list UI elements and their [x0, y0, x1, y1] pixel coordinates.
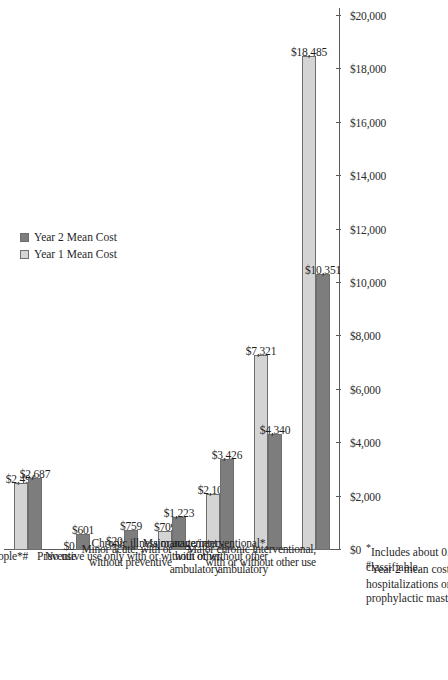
legend-item[interactable]: Year 1 Mean Cost — [20, 248, 117, 260]
category-label: Major chronic interventional, with or wi… — [166, 543, 316, 569]
bar-value-label: $10,351 — [305, 264, 341, 276]
footnote-text: Year 2 mean cost includes a small number… — [366, 563, 448, 604]
bar-value-label: $7,321 — [246, 345, 276, 357]
chart-rotation-stage: $0$2,000$4,000$6,000$8,000$10,000$12,000… — [0, 0, 448, 680]
value-axis-tick — [336, 335, 341, 336]
bar-year1[interactable] — [302, 56, 316, 550]
value-axis-tick — [336, 549, 341, 550]
value-axis-tick-label: $20,000 — [350, 10, 386, 22]
value-axis-tick-label: $0 — [350, 544, 361, 556]
bar-value-label: $2,687 — [20, 468, 50, 480]
legend-swatch-icon — [20, 250, 29, 259]
value-axis-tick — [336, 442, 341, 443]
bar-year1[interactable] — [254, 355, 268, 550]
value-axis-tick — [336, 15, 341, 16]
legend-label: Year 2 Mean Cost — [34, 231, 117, 243]
value-axis-tick-label: $8,000 — [350, 330, 380, 342]
footnote: #Year 2 mean cost includes a small numbe… — [366, 559, 448, 606]
legend-label: Year 1 Mean Cost — [34, 248, 117, 260]
value-axis-tick — [336, 389, 341, 390]
value-axis-tick — [336, 496, 341, 497]
bar-year2[interactable] — [316, 274, 330, 550]
value-axis-tick — [336, 122, 341, 123]
value-axis-tick-label: $4,000 — [350, 437, 380, 449]
value-axis-tick — [336, 68, 341, 69]
value-axis-tick-label: $14,000 — [350, 170, 386, 182]
bar-year1[interactable] — [14, 484, 28, 551]
bar-value-label: $3,426 — [212, 449, 242, 461]
bar-value-label: $759 — [120, 520, 142, 532]
value-axis-tick-label: $2,000 — [350, 491, 380, 503]
value-axis-tick — [336, 175, 341, 176]
value-axis-tick — [336, 229, 341, 230]
value-axis-tick-label: $10,000 — [350, 277, 386, 289]
bar-year2[interactable] — [268, 434, 282, 550]
legend-swatch-icon — [20, 233, 29, 242]
bar-value-label: $4,340 — [260, 424, 290, 436]
value-axis-tick-label: $16,000 — [350, 117, 386, 129]
value-axis-tick-label: $12,000 — [350, 224, 386, 236]
legend-item[interactable]: Year 2 Mean Cost — [20, 231, 117, 243]
plot-area: $0$2,000$4,000$6,000$8,000$10,000$12,000… — [4, 8, 340, 558]
value-axis-tick-label: $18,000 — [350, 63, 386, 75]
bar-chart-figure: $0$2,000$4,000$6,000$8,000$10,000$12,000… — [0, 0, 448, 680]
bar-value-label: $18,485 — [291, 46, 327, 58]
category-axis-line — [339, 8, 340, 550]
bar-value-label: $1,223 — [164, 507, 194, 519]
bar-year2[interactable] — [28, 478, 42, 550]
bar-value-label: $601 — [72, 524, 94, 536]
value-axis-tick-label: $6,000 — [350, 384, 380, 396]
value-axis-tick — [336, 282, 341, 283]
